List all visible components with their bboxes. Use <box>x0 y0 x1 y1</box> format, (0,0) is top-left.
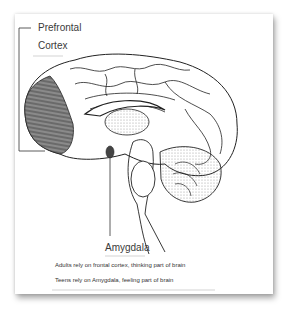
caption-adults: Adults rely on frontal cortex, thinking … <box>55 262 225 268</box>
cortex-label: Cortex <box>38 40 67 51</box>
thalamus <box>105 109 149 135</box>
diagram-card: Prefrontal Cortex Amygdala Adults rely o… <box>15 14 273 294</box>
amygdala-label: Amygdala <box>105 242 149 253</box>
prefrontal-label: Prefrontal <box>38 22 81 33</box>
amygdala-region <box>106 146 114 158</box>
caption-teens: Teens rely on Amygdala, feeling part of … <box>55 277 225 283</box>
